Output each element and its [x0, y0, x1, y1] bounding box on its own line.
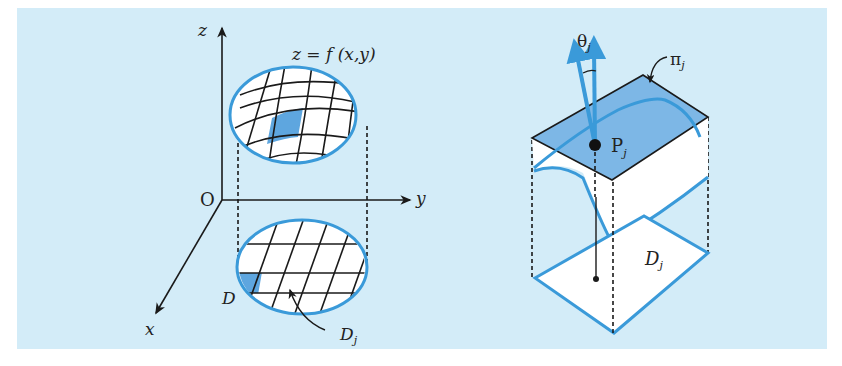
angle-label: θj: [577, 31, 591, 54]
region-center-dot: [593, 276, 599, 282]
normal-vector-vertical: [594, 47, 595, 145]
surface-patch: [230, 65, 360, 172]
diagram-canvas: z y x O: [0, 0, 842, 366]
point-pj: [589, 139, 601, 151]
right-figure: θj πj Pj Dj: [532, 31, 708, 333]
region-d-label: D: [221, 288, 236, 308]
plane-label: πj: [670, 49, 685, 72]
x-axis-label: x: [145, 319, 155, 339]
left-figure: z y x O: [145, 20, 426, 347]
x-axis: [156, 200, 222, 313]
region-dj: [535, 216, 708, 333]
origin-label: O: [200, 189, 215, 210]
y-axis-label: y: [415, 188, 426, 208]
surface-equation-label: z = f (x,y): [291, 44, 376, 64]
subregion-label: Dj: [339, 324, 358, 347]
region-d: [234, 218, 379, 316]
plane-pointer: [650, 57, 667, 82]
z-axis-label: z: [197, 20, 208, 40]
